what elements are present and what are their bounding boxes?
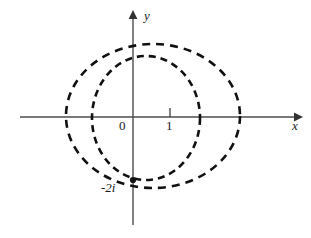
x-tick-label-1: 1 xyxy=(166,118,173,134)
y-axis-arrow-icon xyxy=(129,10,138,19)
plot-canvas xyxy=(0,0,311,238)
small-dashed-circle xyxy=(92,56,200,180)
y-axis-label: y xyxy=(144,8,150,24)
x-axis-label: x xyxy=(292,118,298,134)
complex-plane-figure: y x 0 1 -2i xyxy=(0,0,311,238)
point-marker-minus-2i xyxy=(130,177,136,183)
origin-label: 0 xyxy=(119,118,126,134)
point-label-minus-2i: -2i xyxy=(101,180,115,196)
